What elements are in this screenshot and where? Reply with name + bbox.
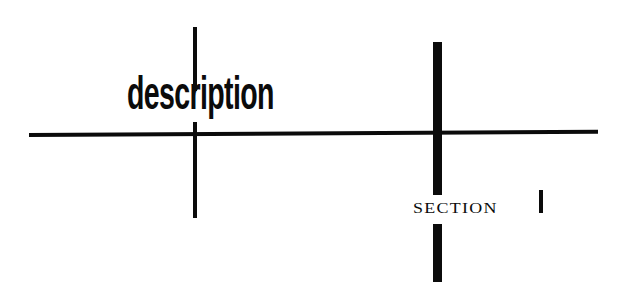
description-label: description [127,70,274,116]
typographic-graphic: description SECTION [0,0,624,304]
right-thick-rule-top [433,42,442,195]
left-vertical-rule-mid [193,122,197,147]
right-thick-rule-bottom [433,224,442,282]
section-marker-bar [539,190,543,213]
section-label: SECTION [413,202,498,216]
left-vertical-rule-bottom [193,147,197,218]
horizontal-rule [29,130,598,137]
